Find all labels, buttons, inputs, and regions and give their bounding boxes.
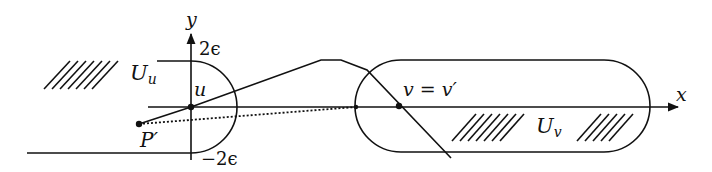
x-axis-label: x [676,83,687,105]
point-u-label: u [194,78,206,100]
y-bottom-tick-label: −2ϵ [201,148,238,169]
region-v-label: Uv [536,114,562,140]
y-axis-label: y [185,8,197,30]
y-top-tick-label: 2ϵ [199,38,221,59]
point-v [396,103,402,109]
path-polyline [139,60,451,158]
region-u-label: Uu [130,61,157,87]
point-stadium-crossing [354,105,358,109]
point-p-prime-label: P′ [139,128,158,152]
point-u [188,104,194,110]
point-p-prime [136,121,142,127]
dotted-line [139,107,356,124]
hatch-left [44,61,118,89]
point-v-label: v = v′ [403,78,457,100]
diagram-canvas: y x 2ϵ −2ϵ Uu Uv u P′ v = v′ [0,0,712,172]
